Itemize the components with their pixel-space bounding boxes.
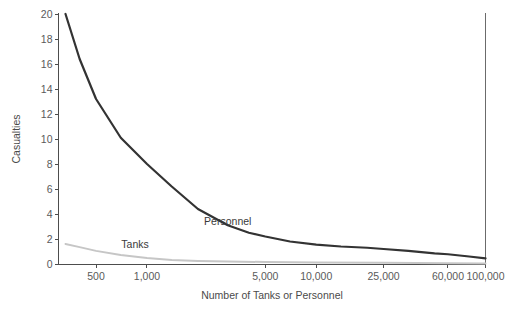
x-axis-title: Number of Tanks or Personnel bbox=[201, 289, 343, 301]
chart-container: 02468101214161820 5001,0005,00010,00025,… bbox=[0, 0, 518, 316]
series-annotations: PersonnelTanks bbox=[121, 215, 251, 250]
y-tick-label: 10 bbox=[41, 133, 53, 145]
y-tick-label: 18 bbox=[41, 33, 53, 45]
y-tick-label: 16 bbox=[41, 58, 53, 70]
y-tick-label: 0 bbox=[47, 258, 53, 270]
y-axis: 02468101214161820 bbox=[41, 8, 59, 270]
y-tick-label: 4 bbox=[47, 208, 53, 220]
x-tick-label: 60,000 bbox=[432, 270, 464, 282]
series-label-tanks: Tanks bbox=[121, 238, 148, 250]
x-tick-label: 100,000 bbox=[467, 270, 505, 282]
series-line-personnel bbox=[66, 14, 486, 258]
x-tick-label: 500 bbox=[87, 270, 105, 282]
x-tick-label: 10,000 bbox=[300, 270, 332, 282]
casualties-vs-quantity-chart: 02468101214161820 5001,0005,00010,00025,… bbox=[0, 0, 518, 316]
y-tick-label: 6 bbox=[47, 183, 53, 195]
y-axis-title: Casualties bbox=[10, 114, 22, 163]
y-tick-label: 8 bbox=[47, 158, 53, 170]
series-label-personnel: Personnel bbox=[204, 215, 251, 227]
x-tick-label: 1,000 bbox=[134, 270, 160, 282]
y-tick-label: 14 bbox=[41, 83, 53, 95]
y-tick-label: 2 bbox=[47, 233, 53, 245]
x-tick-label: 5,000 bbox=[252, 270, 278, 282]
x-tick-label: 25,000 bbox=[368, 270, 400, 282]
series-lines bbox=[66, 14, 486, 263]
axis-titles: Number of Tanks or PersonnelCasualties bbox=[10, 114, 343, 301]
y-tick-label: 20 bbox=[41, 8, 53, 20]
y-tick-label: 12 bbox=[41, 108, 53, 120]
